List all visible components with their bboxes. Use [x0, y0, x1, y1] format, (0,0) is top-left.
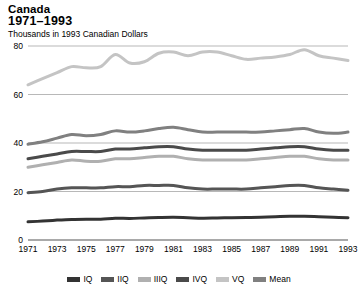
chart-header: Canada 1971–1993 Thousands in 1993 Canad… [8, 3, 348, 40]
page-title-years: 1971–1993 [8, 15, 348, 28]
x-tick-label: 1979 [135, 244, 154, 254]
x-tick-label: 1973 [48, 244, 67, 254]
legend-item-iiq[interactable]: IIQ [101, 275, 128, 284]
y-tick-label: 20 [14, 187, 24, 197]
y-axis-labels: 020406080 [14, 41, 24, 245]
legend-label: IQ [83, 275, 92, 284]
legend-swatch-icon [176, 277, 189, 282]
legend-item-mean[interactable]: Mean [253, 275, 290, 284]
legend-label: Mean [269, 275, 290, 284]
series-line-vq [28, 50, 348, 85]
legend-swatch-icon [138, 277, 151, 282]
x-tick-label: 1977 [106, 244, 125, 254]
series-line-iq [28, 216, 348, 222]
series-line-iiiq [28, 156, 348, 167]
legend-swatch-icon [216, 277, 229, 282]
plot-area: 020406080 197119731975197719791981198319… [0, 40, 358, 264]
chart-legend: IQIIQIIIQIVQVQMean [0, 272, 358, 286]
y-tick-label: 40 [14, 138, 24, 148]
y-tick-label: 60 [14, 90, 24, 100]
x-tick-label: 1985 [222, 244, 241, 254]
legend-item-iq[interactable]: IQ [67, 275, 92, 284]
y-tick-label: 80 [14, 41, 24, 51]
gridlines [28, 46, 348, 240]
x-tick-label: 1983 [193, 244, 212, 254]
legend-swatch-icon [67, 277, 80, 282]
legend-label: VQ [232, 275, 244, 284]
x-tick-label: 1989 [280, 244, 299, 254]
legend-swatch-icon [253, 277, 266, 282]
x-tick-label: 1971 [19, 244, 38, 254]
x-tick-label: 1987 [251, 244, 270, 254]
x-axis-labels: 1971197319751977197919811983198519871989… [19, 244, 358, 254]
chart-subtitle: Thousands in 1993 Canadian Dollars [8, 29, 348, 40]
legend-item-ivq[interactable]: IVQ [176, 275, 207, 284]
legend-swatch-icon [101, 277, 114, 282]
legend-item-vq[interactable]: VQ [216, 275, 244, 284]
legend-label: IVQ [192, 275, 207, 284]
series-line-mean [28, 127, 348, 144]
x-tick-label: 1975 [77, 244, 96, 254]
legend-label: IIQ [117, 275, 128, 284]
x-tick-label: 1991 [309, 244, 328, 254]
line-chart-svg: 020406080 197119731975197719791981198319… [0, 40, 358, 264]
series-lines [28, 50, 348, 222]
x-tick-label: 1993 [339, 244, 358, 254]
legend-item-iiiq[interactable]: IIIQ [138, 275, 168, 284]
x-tick-label: 1981 [164, 244, 183, 254]
legend-label: IIIQ [154, 275, 168, 284]
chart-page: Canada 1971–1993 Thousands in 1993 Canad… [0, 0, 358, 288]
